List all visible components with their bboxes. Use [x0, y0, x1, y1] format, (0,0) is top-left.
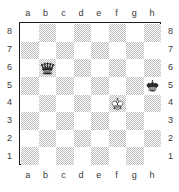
board-square-d5[interactable] — [74, 77, 92, 95]
board-square-f6[interactable] — [109, 59, 127, 77]
board-square-b3[interactable] — [39, 112, 57, 130]
board-square-a4[interactable] — [21, 95, 39, 113]
rank-label-6-right: 6 — [162, 58, 179, 76]
board-square-c5[interactable] — [56, 77, 74, 95]
file-label-g-top: g — [126, 5, 144, 21]
board-square-g1[interactable] — [126, 147, 144, 165]
board-square-a3[interactable] — [21, 112, 39, 130]
rank-label-5-left: 5 — [1, 76, 18, 94]
rank-labels-right: 8 7 6 5 4 3 2 1 — [162, 22, 179, 165]
board-square-g3[interactable] — [126, 112, 144, 130]
board-square-b8[interactable] — [39, 24, 57, 42]
board-square-d1[interactable] — [74, 147, 92, 165]
board-square-d6[interactable] — [74, 59, 92, 77]
board-square-c6[interactable] — [56, 59, 74, 77]
board-square-e5[interactable] — [91, 77, 109, 95]
file-label-d-top: d — [72, 5, 90, 21]
file-label-e-top: e — [90, 5, 108, 21]
rank-label-6-left: 6 — [1, 58, 18, 76]
file-label-h-bottom: h — [143, 167, 161, 183]
board-square-h3[interactable] — [144, 112, 162, 130]
board-square-f4[interactable] — [109, 95, 127, 113]
board-square-e2[interactable] — [91, 130, 109, 148]
board-square-d8[interactable] — [74, 24, 92, 42]
rank-label-1-right: 1 — [162, 147, 179, 165]
board-square-a2[interactable] — [21, 130, 39, 148]
board-square-c3[interactable] — [56, 112, 74, 130]
board-grid — [21, 24, 161, 165]
rank-label-7-left: 7 — [1, 40, 18, 58]
board-square-d4[interactable] — [74, 95, 92, 113]
board-square-e3[interactable] — [91, 112, 109, 130]
board-square-h4[interactable] — [144, 95, 162, 113]
file-label-c-bottom: c — [55, 167, 73, 183]
file-label-b-bottom: b — [37, 167, 55, 183]
rank-label-3-left: 3 — [1, 111, 18, 129]
board-square-b2[interactable] — [39, 130, 57, 148]
board-square-h5[interactable] — [144, 77, 162, 95]
board-square-f8[interactable] — [109, 24, 127, 42]
rank-label-8-left: 8 — [1, 22, 18, 40]
board-square-a6[interactable] — [21, 59, 39, 77]
board-square-b4[interactable] — [39, 95, 57, 113]
board-square-g2[interactable] — [126, 130, 144, 148]
black-queen-icon — [39, 59, 57, 77]
file-label-e-bottom: e — [90, 167, 108, 183]
file-label-a-bottom: a — [19, 167, 37, 183]
board-square-h8[interactable] — [144, 24, 162, 42]
board-square-g5[interactable] — [126, 77, 144, 95]
board-square-c1[interactable] — [56, 147, 74, 165]
board-square-c4[interactable] — [56, 95, 74, 113]
rank-label-8-right: 8 — [162, 22, 179, 40]
board-square-d3[interactable] — [74, 112, 92, 130]
board-square-f3[interactable] — [109, 112, 127, 130]
board-square-h2[interactable] — [144, 130, 162, 148]
board-square-e8[interactable] — [91, 24, 109, 42]
board-square-f5[interactable] — [109, 77, 127, 95]
board-square-e1[interactable] — [91, 147, 109, 165]
file-label-g-bottom: g — [126, 167, 144, 183]
board-square-c2[interactable] — [56, 130, 74, 148]
board-square-d7[interactable] — [74, 42, 92, 60]
file-labels-bottom: a b c d e f g h — [19, 167, 161, 183]
black-king-icon — [144, 77, 162, 95]
board-square-e6[interactable] — [91, 59, 109, 77]
rank-label-4-right: 4 — [162, 94, 179, 112]
board-square-g4[interactable] — [126, 95, 144, 113]
board-square-a7[interactable] — [21, 42, 39, 60]
board-square-f7[interactable] — [109, 42, 127, 60]
board-square-a5[interactable] — [21, 77, 39, 95]
board-square-g6[interactable] — [126, 59, 144, 77]
board-square-h7[interactable] — [144, 42, 162, 60]
file-label-c-top: c — [55, 5, 73, 21]
board-square-b1[interactable] — [39, 147, 57, 165]
file-label-d-bottom: d — [72, 167, 90, 183]
board-square-e4[interactable] — [91, 95, 109, 113]
board-square-h6[interactable] — [144, 59, 162, 77]
rank-label-3-right: 3 — [162, 111, 179, 129]
white-king-icon — [109, 95, 127, 113]
board-square-a1[interactable] — [21, 147, 39, 165]
board-square-e7[interactable] — [91, 42, 109, 60]
board-square-f1[interactable] — [109, 147, 127, 165]
board-square-h1[interactable] — [144, 147, 162, 165]
board-square-d2[interactable] — [74, 130, 92, 148]
file-label-h-top: h — [143, 5, 161, 21]
board-square-c7[interactable] — [56, 42, 74, 60]
rank-label-1-left: 1 — [1, 147, 18, 165]
chess-diagram: a b c d e f g h 8 7 6 5 4 3 2 1 8 7 6 5 … — [0, 0, 179, 192]
file-label-b-top: b — [37, 5, 55, 21]
board-square-b6[interactable] — [39, 59, 57, 77]
board-square-b5[interactable] — [39, 77, 57, 95]
rank-label-2-left: 2 — [1, 129, 18, 147]
rank-label-5-right: 5 — [162, 76, 179, 94]
rank-labels-left: 8 7 6 5 4 3 2 1 — [1, 22, 18, 165]
rank-label-7-right: 7 — [162, 40, 179, 58]
file-label-a-top: a — [19, 5, 37, 21]
board-square-f2[interactable] — [109, 130, 127, 148]
board-square-b7[interactable] — [39, 42, 57, 60]
board-square-c8[interactable] — [56, 24, 74, 42]
board-square-g8[interactable] — [126, 24, 144, 42]
board-square-g7[interactable] — [126, 42, 144, 60]
board-square-a8[interactable] — [21, 24, 39, 42]
